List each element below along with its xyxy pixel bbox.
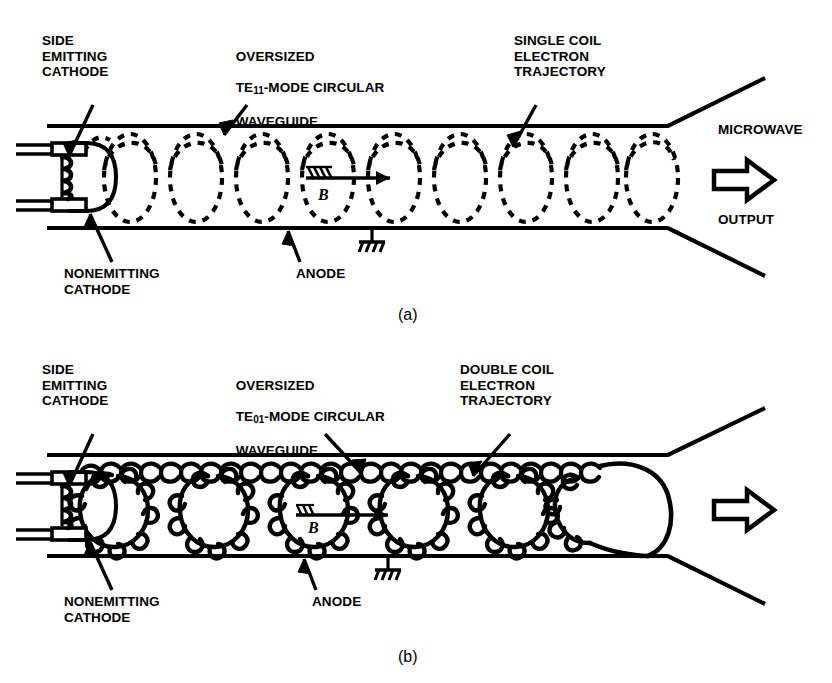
figure-canvas: B bbox=[0, 0, 832, 683]
label-output-a: OUTPUT bbox=[718, 212, 774, 228]
label-waveguide-mode-suffix-a: -MODE CIRCULAR bbox=[264, 80, 385, 95]
label-waveguide-line3-a: WAVEGUIDE bbox=[236, 114, 318, 129]
label-waveguide-line3-b: WAVEGUIDE bbox=[236, 443, 318, 458]
label-waveguide-mode-suffix-b: -MODE CIRCULAR bbox=[264, 409, 385, 424]
label-waveguide-b: OVERSIZED TE01-MODE CIRCULAR WAVEGUIDE bbox=[228, 362, 385, 458]
label-anode-a: ANODE bbox=[296, 266, 345, 282]
label-trajectory-b: DOUBLE COILELECTRONTRAJECTORY bbox=[460, 362, 554, 409]
label-trajectory-a: SINGLE COILELECTRONTRAJECTORY bbox=[514, 33, 606, 80]
b-field-label-b: B bbox=[307, 519, 319, 536]
label-nonemitting-cathode-a: NONEMITTINGCATHODE bbox=[64, 266, 160, 297]
label-anode-b: ANODE bbox=[312, 594, 361, 610]
caption-panel-b: (b) bbox=[398, 648, 418, 666]
figure-background bbox=[0, 0, 832, 683]
caption-panel-a: (a) bbox=[398, 306, 418, 324]
label-waveguide-mode-prefix-a: TE bbox=[236, 80, 253, 95]
label-nonemitting-cathode-b: NONEMITTINGCATHODE bbox=[64, 594, 160, 625]
label-waveguide-line1-a: OVERSIZED bbox=[236, 49, 315, 64]
label-microwave-a: MICROWAVE bbox=[718, 122, 803, 138]
label-waveguide-mode-sub-a: 11 bbox=[253, 85, 264, 96]
label-waveguide-a: OVERSIZED TE11-MODE CIRCULAR WAVEGUIDE bbox=[228, 33, 384, 129]
label-side-emitting-cathode-a: SIDEEMITTINGCATHODE bbox=[42, 33, 108, 80]
label-waveguide-line1-b: OVERSIZED bbox=[236, 378, 315, 393]
label-side-emitting-cathode-b: SIDEEMITTINGCATHODE bbox=[42, 362, 108, 409]
label-waveguide-mode-sub-b: 01 bbox=[253, 414, 264, 425]
b-field-label-a: B bbox=[317, 186, 329, 203]
label-waveguide-mode-prefix-b: TE bbox=[236, 409, 253, 424]
